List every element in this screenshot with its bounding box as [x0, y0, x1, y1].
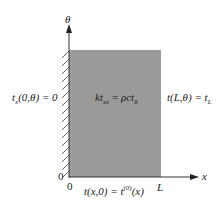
- origin-x-label: 0: [67, 181, 73, 192]
- wall-hatching: [62, 51, 69, 178]
- x-end-label: L: [157, 182, 163, 193]
- domain-region: [69, 50, 161, 177]
- right-boundary-condition: t(L,θ) = tL: [167, 92, 212, 103]
- left-boundary-condition: tx(0,θ) = 0: [12, 92, 58, 103]
- governing-equation: ktxx = ρctθ: [95, 92, 138, 103]
- x-axis-arrow-icon: [190, 174, 199, 180]
- theta-axis-arrow-icon: [66, 24, 72, 33]
- initial-condition: t(x,0) = t(0)(x): [84, 186, 144, 197]
- x-axis-label: x: [202, 171, 207, 182]
- origin-theta-label: 0: [58, 171, 64, 182]
- theta-axis-label: θ: [65, 14, 70, 25]
